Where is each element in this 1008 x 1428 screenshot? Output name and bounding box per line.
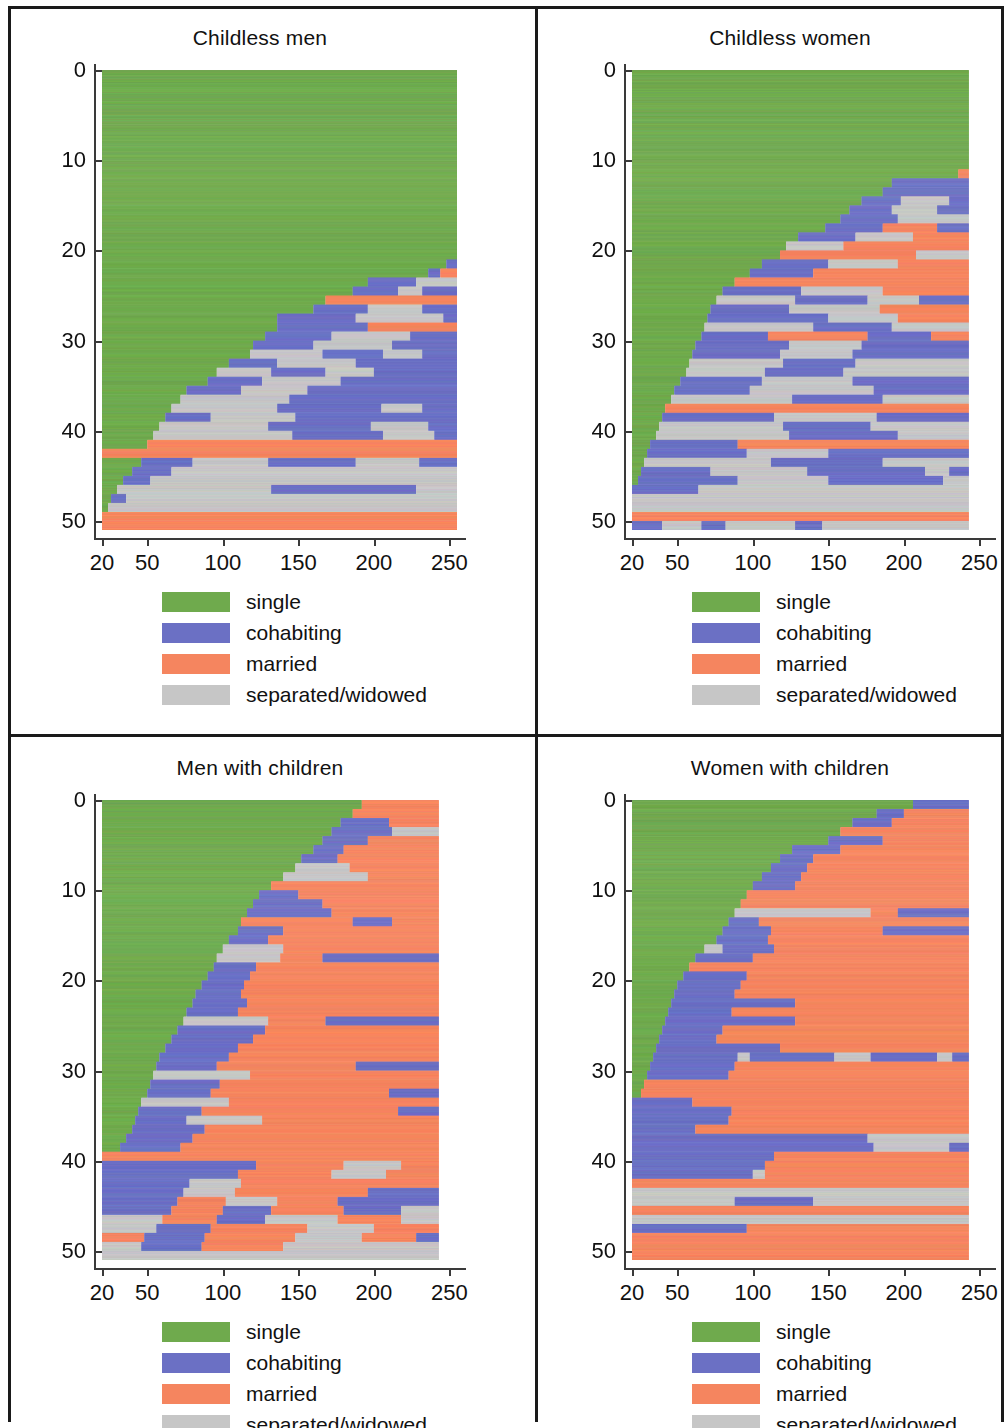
y-axis-line <box>624 794 626 1268</box>
y-tick-label: 40 <box>18 1150 86 1172</box>
legend-item: cohabiting <box>540 1347 1008 1378</box>
y-tick-label: 10 <box>18 879 86 901</box>
legend-swatch-separated <box>162 1415 230 1428</box>
panel-childless-women: Childless women 010203040502050100150200… <box>540 8 1008 722</box>
plot-area <box>102 70 457 530</box>
legend: single cohabiting married separated/wido… <box>10 586 510 710</box>
x-tick-label: 150 <box>268 1282 328 1304</box>
y-tick <box>94 800 102 802</box>
x-tick-label: 200 <box>874 1282 934 1304</box>
legend-swatch-cohabiting <box>692 1353 760 1373</box>
legend-label: separated/widowed <box>776 683 957 707</box>
sequence-index-canvas <box>102 800 457 1260</box>
legend-swatch-married <box>162 654 230 674</box>
x-tick <box>374 1268 376 1276</box>
x-tick-label: 250 <box>419 552 479 574</box>
panel-divider-vertical <box>535 6 538 1422</box>
x-tick-label: 200 <box>874 552 934 574</box>
plot-wrapper: 010203040502050100150200250 <box>540 60 1008 560</box>
y-tick-label: 20 <box>18 239 86 261</box>
y-tick <box>624 980 632 982</box>
legend-item: cohabiting <box>10 617 510 648</box>
legend-swatch-married <box>162 1384 230 1404</box>
y-tick-label: 0 <box>18 789 86 811</box>
legend-label: cohabiting <box>246 1351 342 1375</box>
legend-swatch-single <box>162 592 230 612</box>
x-tick-label: 100 <box>193 1282 253 1304</box>
y-tick <box>624 800 632 802</box>
x-tick-label: 50 <box>117 1282 177 1304</box>
y-tick <box>94 341 102 343</box>
legend-label: single <box>246 1320 301 1344</box>
legend-swatch-single <box>692 592 760 612</box>
y-tick <box>624 70 632 72</box>
x-tick-label: 50 <box>647 1282 707 1304</box>
x-tick-label: 150 <box>268 552 328 574</box>
y-tick-label: 10 <box>548 149 616 171</box>
legend-label: cohabiting <box>776 1351 872 1375</box>
plot-area <box>102 800 457 1260</box>
y-tick <box>94 980 102 982</box>
panel-men-with-children: Men with children 0102030405020501001502… <box>10 738 510 1428</box>
x-tick <box>449 1268 451 1276</box>
y-tick-label: 20 <box>548 239 616 261</box>
legend-item: married <box>10 1378 510 1409</box>
panel-title: Childless women <box>540 26 1008 50</box>
x-tick-label: 100 <box>723 552 783 574</box>
plot-wrapper: 010203040502050100150200250 <box>540 790 1008 1290</box>
x-tick <box>677 538 679 546</box>
legend-item: separated/widowed <box>10 679 510 710</box>
legend-label: separated/widowed <box>246 1413 427 1428</box>
x-tick-label: 250 <box>949 1282 1008 1304</box>
x-tick <box>147 1268 149 1276</box>
y-tick-label: 20 <box>18 969 86 991</box>
y-tick-label: 50 <box>548 510 616 532</box>
x-tick <box>223 1268 225 1276</box>
y-tick-label: 10 <box>548 879 616 901</box>
x-tick-label: 250 <box>419 1282 479 1304</box>
x-axis-line <box>624 538 996 540</box>
legend-item: single <box>540 586 1008 617</box>
panel-title: Men with children <box>10 756 510 780</box>
plot-area <box>632 70 987 530</box>
y-tick <box>94 1161 102 1163</box>
y-tick <box>94 250 102 252</box>
x-tick <box>753 1268 755 1276</box>
sequence-index-canvas <box>102 70 457 530</box>
legend-swatch-cohabiting <box>162 623 230 643</box>
x-tick-label: 200 <box>344 552 404 574</box>
legend-item: single <box>540 1316 1008 1347</box>
x-tick <box>979 1268 981 1276</box>
x-tick <box>753 538 755 546</box>
legend-item: separated/widowed <box>540 679 1008 710</box>
x-tick <box>904 1268 906 1276</box>
legend-item: married <box>10 648 510 679</box>
y-tick <box>94 160 102 162</box>
y-tick <box>94 1071 102 1073</box>
x-tick-label: 250 <box>949 552 1008 574</box>
legend-swatch-single <box>692 1322 760 1342</box>
legend-label: separated/widowed <box>776 1413 957 1428</box>
y-tick-label: 40 <box>18 420 86 442</box>
x-tick <box>298 538 300 546</box>
y-tick-label: 40 <box>548 1150 616 1172</box>
y-tick-label: 40 <box>548 420 616 442</box>
x-tick-label: 150 <box>798 1282 858 1304</box>
legend-swatch-separated <box>692 1415 760 1428</box>
y-tick <box>94 890 102 892</box>
legend-swatch-married <box>692 1384 760 1404</box>
x-tick <box>102 1268 104 1276</box>
legend-item: separated/widowed <box>540 1409 1008 1428</box>
legend-label: cohabiting <box>246 621 342 645</box>
legend-label: cohabiting <box>776 621 872 645</box>
x-tick <box>632 538 634 546</box>
x-tick <box>677 1268 679 1276</box>
legend-item: cohabiting <box>10 1347 510 1378</box>
x-tick <box>828 1268 830 1276</box>
sequence-index-canvas <box>632 800 987 1260</box>
x-tick <box>374 538 376 546</box>
legend-swatch-cohabiting <box>162 1353 230 1373</box>
x-tick <box>632 1268 634 1276</box>
y-tick-label: 10 <box>18 149 86 171</box>
x-tick-label: 100 <box>723 1282 783 1304</box>
